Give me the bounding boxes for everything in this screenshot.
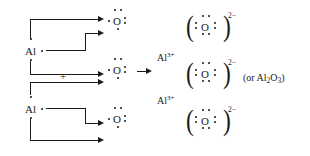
oxygen-middle-dot-right-top (124, 66, 126, 68)
aluminum-cation-lower-charge: 3+ (167, 94, 174, 102)
oxygen-middle-dot-bottom (117, 77, 119, 79)
oxide-2-oxygen-symbol: O (201, 69, 209, 80)
transfer-arrowhead-2 (98, 30, 104, 36)
transfer-path-5-horizontal (46, 108, 85, 109)
oxide-1-oxygen-symbol: O (201, 22, 209, 33)
oxide-1-left-paren: ( (186, 11, 194, 41)
oxide-1-dot-bottom-left (202, 33, 204, 35)
transfer-arrowhead-3 (98, 71, 104, 77)
alternate-formula-mid: O (270, 72, 277, 83)
aluminum-cation-upper-symbol: Al (157, 52, 167, 63)
oxide-1-dot-bottom-right (208, 33, 210, 35)
oxygen-middle-dot-top-left (114, 58, 116, 60)
oxygen-upper-dot-right-bottom (124, 22, 126, 24)
oxide-1-dot-right-bottom (214, 27, 216, 29)
oxygen-upper-dot-top-left (114, 9, 116, 11)
oxide-2-charge: 2− (228, 59, 236, 67)
aluminum-atom-label-upper: Al (25, 46, 36, 57)
oxide-3-dot-bottom-left (202, 127, 204, 129)
alternate-formula: (or Al2O3) (243, 73, 285, 83)
transfer-path-2-vertical (85, 33, 86, 51)
oxygen-lower-dot-bottom (117, 126, 119, 128)
oxide-2-dot-top-right (208, 62, 210, 64)
transfer-path-2-horizontal (46, 50, 85, 51)
oxide-2-dot-top-left (202, 62, 204, 64)
aluminum-cation-lower-symbol: Al (157, 95, 167, 106)
oxygen-lower-dot-left (108, 118, 110, 120)
transfer-arrowhead-4 (98, 79, 104, 85)
oxygen-upper-dot-top-right (120, 9, 122, 11)
oxide-1-charge: 2− (228, 12, 236, 20)
transfer-arrowhead-1 (98, 16, 104, 22)
oxide-1-dot-top-left (202, 15, 204, 17)
transfer-path-6-horizontal (30, 140, 100, 141)
oxide-3-oxygen-symbol: O (201, 116, 209, 127)
alternate-formula-prefix: (or Al (243, 72, 267, 83)
oxygen-lower-dot-top-left (114, 107, 116, 109)
oxygen-middle-dot-top-right (120, 58, 122, 60)
oxide-2-dot-right-top (214, 69, 216, 71)
aluminum-valence-dot-upper-right (41, 50, 43, 52)
alternate-formula-sub-2: 3 (278, 76, 282, 85)
oxygen-middle-dot-right-bottom (124, 71, 126, 73)
oxide-1-dot-left-top (195, 22, 197, 24)
oxide-3-dot-bottom-right (208, 127, 210, 129)
transfer-path-1-vertical (30, 19, 31, 39)
oxide-2-dot-bottom-right (208, 80, 210, 82)
alternate-formula-suffix: ) (281, 72, 284, 83)
aluminum-cation-upper-charge: 3+ (167, 51, 174, 59)
transfer-path-6-vertical (30, 119, 31, 141)
oxide-3-dot-left-top (195, 116, 197, 118)
oxide-2-dot-bottom-left (202, 80, 204, 82)
transfer-arrowhead-6 (98, 137, 104, 143)
transfer-path-4-horizontal (30, 82, 100, 83)
transfer-path-5-vertical (85, 108, 86, 124)
oxygen-upper-dot-right-top (124, 17, 126, 19)
oxygen-upper-dot-bottom (117, 28, 119, 30)
oxide-3-dot-right-bottom (214, 121, 216, 123)
oxygen-middle-dot-left (108, 69, 110, 71)
alternate-formula-sub-1: 2 (267, 76, 271, 85)
oxygen-atom-label-middle: O (113, 65, 121, 76)
reaction-arrow-head (146, 68, 152, 74)
oxygen-lower-dot-top-right (120, 107, 122, 109)
oxide-1-dot-top-right (208, 15, 210, 17)
oxide-3-dot-top-left (202, 109, 204, 111)
oxide-3-dot-left-bottom (195, 121, 197, 123)
transfer-arrowhead-5 (98, 120, 104, 126)
plus-sign: + (60, 71, 66, 82)
oxide-1-dot-left-bottom (195, 27, 197, 29)
transfer-path-4-vertical (30, 82, 31, 95)
oxygen-lower-dot-right-top (124, 115, 126, 117)
transfer-path-3-vertical (30, 61, 31, 75)
oxide-1-dot-right-top (214, 22, 216, 24)
oxygen-atom-label-upper: O (113, 16, 121, 27)
transfer-path-1-horizontal (30, 19, 100, 20)
oxygen-atom-label-lower: O (113, 114, 121, 125)
oxide-3-left-paren: ( (186, 105, 194, 135)
aluminum-valence-dot-lower-top (30, 96, 32, 98)
oxide-3-dot-right-top (214, 116, 216, 118)
oxide-2-dot-left-bottom (195, 74, 197, 76)
oxygen-upper-dot-left (108, 20, 110, 22)
aluminum-valence-dot-lower-right (41, 108, 43, 110)
oxide-3-dot-top-right (208, 109, 210, 111)
aluminum-cation-upper: Al3+ (157, 52, 174, 63)
lewis-structure-diagram: Al Al O O O (0, 0, 310, 156)
oxygen-lower-dot-right-bottom (124, 120, 126, 122)
oxide-2-left-paren: ( (186, 58, 194, 88)
oxide-2-dot-left-top (195, 69, 197, 71)
oxide-2-dot-right-bottom (214, 74, 216, 76)
aluminum-cation-lower: Al3+ (157, 95, 174, 106)
aluminum-atom-label-lower: Al (25, 104, 36, 115)
oxide-3-charge: 2− (228, 106, 236, 114)
